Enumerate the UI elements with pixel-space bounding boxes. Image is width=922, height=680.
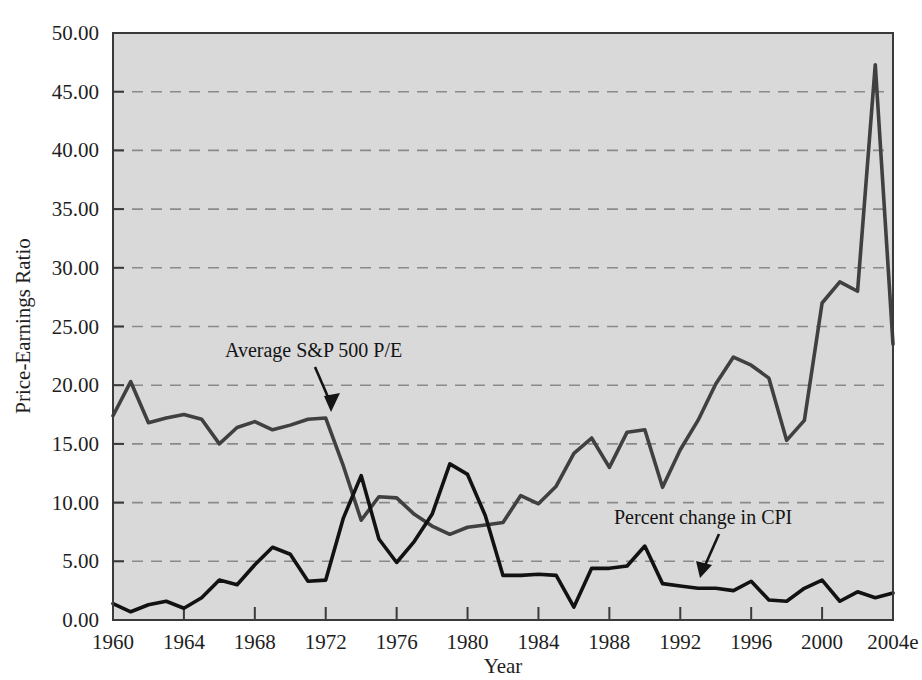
x-axis-tick-label: 2000: [801, 630, 843, 654]
y-axis-tick-label: 40.00: [52, 138, 99, 162]
chart-figure: 0.005.0010.0015.0020.0025.0030.0035.0040…: [0, 0, 922, 680]
x-axis-tick-label: 2004e: [867, 630, 918, 654]
x-axis-tick-label: 1988: [588, 630, 630, 654]
x-axis-tick-label: 1984: [517, 630, 560, 654]
y-axis-tick-label: 10.00: [52, 491, 99, 515]
x-axis-tick-label: 1972: [305, 630, 347, 654]
x-axis-tick-label: 1960: [92, 630, 134, 654]
x-axis-tick-label: 1976: [376, 630, 418, 654]
y-axis-tick-label: 50.00: [52, 21, 99, 45]
price-earnings-ratio-line-chart: 0.005.0010.0015.0020.0025.0030.0035.0040…: [0, 0, 922, 680]
x-axis-tick-labels: 1960196419681972197619801984198819921996…: [92, 630, 919, 654]
y-axis-tick-labels: 0.005.0010.0015.0020.0025.0030.0035.0040…: [52, 21, 99, 632]
y-axis-title: Price-Earnings Ratio: [11, 238, 35, 414]
x-axis-tick-label: 1980: [447, 630, 489, 654]
annotation-cpi-label: Percent change in CPI: [614, 506, 792, 529]
x-axis-title: Year: [484, 654, 523, 678]
x-axis-tick-label: 1992: [659, 630, 701, 654]
x-axis-tick-label: 1964: [163, 630, 206, 654]
y-axis-tick-label: 30.00: [52, 256, 99, 280]
x-axis-tick-label: 1996: [730, 630, 772, 654]
y-axis-tick-label: 0.00: [62, 608, 99, 632]
y-axis-tick-label: 35.00: [52, 197, 99, 221]
annotation-sp500-label: Average S&P 500 P/E: [225, 339, 402, 362]
x-axis-tick-label: 1968: [234, 630, 276, 654]
y-axis-tick-label: 5.00: [62, 549, 99, 573]
y-axis-tick-label: 15.00: [52, 432, 99, 456]
y-axis-tick-label: 25.00: [52, 315, 99, 339]
y-axis-tick-label: 45.00: [52, 80, 99, 104]
y-axis-tick-label: 20.00: [52, 373, 99, 397]
